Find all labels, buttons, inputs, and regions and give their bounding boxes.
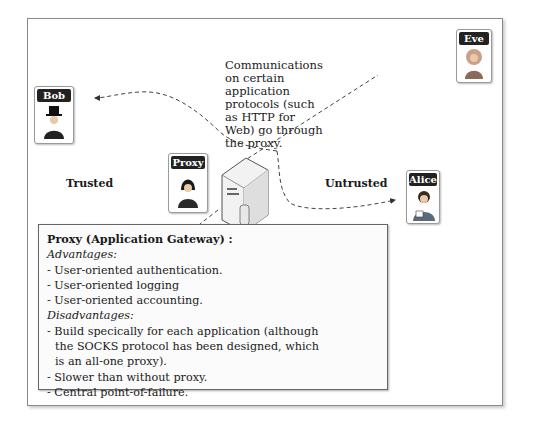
zone-trusted-label: Trusted [66, 177, 113, 190]
actor-proxy-label: Proxy [171, 156, 205, 169]
zone-untrusted-label: Untrusted [325, 177, 387, 190]
proxy-info-box: Proxy (Application Gateway) : Advantages… [38, 224, 388, 390]
actor-eve-label: Eve [459, 32, 489, 45]
actor-eve-card: Eve [456, 29, 492, 83]
actor-alice-label: Alice [409, 173, 437, 186]
disadvantages-heading: Disadvantages: [47, 308, 387, 323]
proxy-note: Communications on certain application pr… [225, 59, 325, 150]
disadvantage-item-continued: is an all-one proxy). [47, 354, 387, 369]
info-title: Proxy (Application Gateway) : [47, 232, 387, 247]
server-icon [222, 158, 268, 232]
top-hat-man-icon [35, 103, 73, 143]
disadvantage-item: - Build specically for each application … [47, 324, 387, 339]
advantages-heading: Advantages: [47, 247, 387, 262]
advantage-item: - User-oriented logging [47, 278, 387, 293]
advantage-item: - User-oriented authentication. [47, 263, 387, 278]
actor-bob-label: Bob [37, 89, 71, 102]
advantage-item: - User-oriented accounting. [47, 293, 387, 308]
disadvantage-item: - Slower than without proxy. [47, 370, 387, 385]
actor-proxy-card: Proxy [168, 153, 208, 213]
actor-alice-card: Alice [406, 170, 440, 224]
hooded-person-icon [169, 170, 207, 210]
woman-with-book-icon [407, 187, 439, 223]
actor-bob-card: Bob [34, 86, 74, 144]
disadvantage-item-continued: the SOCKS protocol has been designed, wh… [47, 339, 387, 354]
curly-hair-woman-icon [457, 46, 491, 82]
disadvantage-item: - Central point-of-failure. [47, 385, 387, 400]
